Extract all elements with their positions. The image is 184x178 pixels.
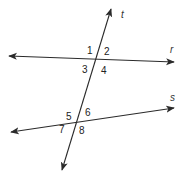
line-label-r: r [170, 44, 174, 55]
angle-label-5: 5 [66, 111, 72, 122]
line-s [11, 108, 174, 132]
angle-label-6: 6 [85, 107, 91, 118]
angle-label-8: 8 [79, 125, 85, 136]
line-label-s: s [170, 92, 175, 103]
angle-label-3: 3 [82, 64, 88, 75]
angle-label-1: 1 [87, 45, 93, 56]
transversal-diagram: r s t 1 2 3 4 5 6 7 8 [0, 0, 184, 178]
line-label-t: t [121, 9, 125, 20]
angle-label-2: 2 [104, 46, 110, 57]
line-t-transversal [62, 9, 111, 170]
angle-label-4: 4 [101, 65, 107, 76]
angle-label-7: 7 [59, 124, 65, 135]
line-r [9, 56, 174, 62]
